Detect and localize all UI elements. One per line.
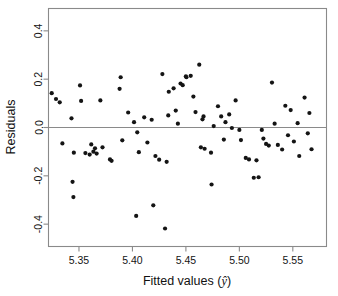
data-point	[100, 145, 104, 149]
data-point	[270, 80, 274, 84]
data-point	[286, 133, 290, 137]
data-point	[234, 98, 238, 102]
data-point	[145, 140, 149, 144]
data-point	[302, 95, 306, 99]
data-point	[297, 154, 301, 158]
data-point	[69, 116, 73, 120]
data-point	[184, 75, 188, 79]
data-point	[247, 157, 251, 161]
data-point	[309, 147, 313, 151]
data-point	[212, 124, 216, 128]
data-point	[150, 118, 154, 122]
data-point	[98, 98, 102, 102]
data-point	[209, 151, 213, 155]
data-point	[120, 138, 124, 142]
data-point	[216, 104, 220, 108]
data-point	[283, 104, 287, 108]
data-point	[58, 100, 62, 104]
data-point	[280, 147, 284, 151]
data-point	[292, 139, 296, 143]
data-point	[176, 122, 180, 126]
data-point	[142, 115, 146, 119]
data-point	[227, 112, 231, 116]
x-axis-title-prefix: Fitted values (	[143, 274, 222, 288]
y-axis-title: Residuals	[4, 100, 18, 155]
data-point	[54, 97, 58, 101]
data-point	[189, 74, 193, 78]
data-point	[222, 137, 226, 141]
data-point	[163, 226, 167, 230]
data-point	[88, 152, 92, 156]
data-point	[201, 114, 205, 118]
data-point	[157, 158, 161, 162]
data-point	[199, 145, 203, 149]
data-point	[260, 128, 264, 132]
y-tick-label: -0.2	[33, 167, 45, 185]
data-point	[261, 137, 265, 141]
x-axis-tick-marks	[79, 247, 293, 252]
data-point	[209, 182, 213, 186]
x-tick-label: 5.45	[176, 254, 197, 266]
data-point	[296, 121, 300, 125]
data-point	[79, 99, 83, 103]
data-point	[193, 110, 197, 114]
data-point	[267, 144, 271, 148]
x-tick-label: 5.50	[229, 254, 250, 266]
y-tick-label: 0.2	[33, 72, 45, 87]
data-point	[252, 176, 256, 180]
y-tick-label: -0.4	[33, 215, 45, 233]
y-tick-label: 0.4	[33, 23, 45, 38]
data-point	[89, 142, 93, 146]
residual-plot-figure: 0.40.20.0-0.2-0.4 5.355.405.455.505.55 R…	[0, 0, 338, 296]
data-point	[72, 151, 76, 155]
data-point	[273, 122, 277, 126]
data-point	[230, 126, 234, 130]
data-point	[254, 158, 258, 162]
data-point	[174, 108, 178, 112]
data-point	[135, 130, 139, 134]
scatter-plot-canvas: 0.40.20.0-0.2-0.4 5.355.405.455.505.55 R…	[0, 0, 338, 296]
data-point	[109, 159, 113, 163]
data-point	[153, 154, 157, 158]
x-axis-title: Fitted values (ŷ)	[143, 274, 231, 288]
data-point	[119, 75, 123, 79]
data-point	[50, 91, 54, 95]
data-point	[257, 175, 261, 179]
data-point	[165, 160, 169, 164]
x-tick-label: 5.35	[69, 254, 90, 266]
y-tick-label: 0.0	[33, 120, 45, 135]
data-point	[71, 195, 75, 199]
x-tick-label: 5.55	[283, 254, 304, 266]
data-point	[134, 214, 138, 218]
data-point	[83, 151, 87, 155]
data-point	[126, 110, 130, 114]
data-point	[166, 113, 170, 117]
data-point	[276, 143, 280, 147]
data-point	[93, 146, 97, 150]
data-point	[306, 131, 310, 135]
data-point	[167, 90, 171, 94]
scatter-points-group	[50, 63, 314, 231]
data-point	[137, 150, 141, 154]
data-point	[160, 72, 164, 76]
x-axis-tick-labels: 5.355.405.455.505.55	[69, 254, 303, 266]
data-point	[219, 114, 223, 118]
data-point	[289, 108, 293, 112]
data-point	[132, 120, 136, 124]
x-tick-label: 5.40	[122, 254, 143, 266]
data-point	[60, 141, 64, 145]
data-point	[191, 94, 195, 98]
data-point	[151, 203, 155, 207]
data-point	[95, 152, 99, 156]
data-point	[181, 83, 185, 87]
data-point	[118, 87, 122, 91]
data-point	[78, 83, 82, 87]
y-axis-tick-labels: 0.40.20.0-0.2-0.4	[33, 23, 45, 233]
data-point	[223, 120, 227, 124]
data-point	[237, 128, 241, 132]
data-point	[307, 111, 311, 115]
data-point	[203, 147, 207, 151]
data-point	[239, 138, 243, 142]
data-point	[197, 63, 201, 67]
data-point	[172, 86, 176, 90]
